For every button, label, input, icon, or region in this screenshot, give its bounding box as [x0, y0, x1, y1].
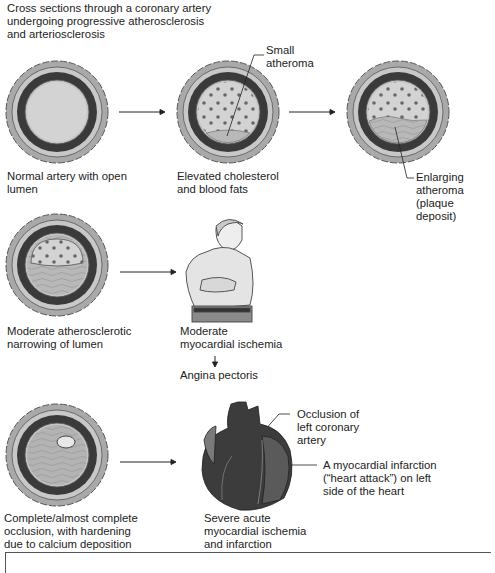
artery-small-atheroma-icon	[177, 61, 279, 163]
artery-enlarging-atheroma-icon	[347, 61, 449, 163]
artery-moderate-narrowing-icon	[6, 214, 108, 316]
stage-label-moderate-narrowing: Moderate atherosclerotic narrowing of lu…	[7, 325, 131, 351]
callout-myocardial-infarction: A myocardial infarction (“heart attack”)…	[323, 459, 437, 498]
stage-label-occlusion: Complete/almost complete occlusion, with…	[4, 512, 138, 551]
artery-normal-icon	[6, 61, 108, 163]
man-chest-pain-icon	[186, 219, 253, 322]
callout-small-atheroma: Small atheroma	[266, 44, 314, 70]
stage-label-small-atheroma: Elevated cholesterol and blood fats	[177, 170, 279, 196]
artery-occlusion-icon	[6, 404, 108, 506]
callout-occlusion-left-coronary: Occlusion of left coronary artery	[297, 408, 359, 447]
heart-icon	[202, 402, 292, 510]
stage-label-normal: Normal artery with open lumen	[7, 170, 127, 196]
outcome-angina-pectoris: Angina pectoris	[180, 369, 258, 382]
outcome-moderate-ischemia: Moderate myocardial ischemia	[180, 325, 282, 351]
outcome-severe-ischemia: Severe acute myocardial ischemia and inf…	[204, 512, 306, 551]
callout-enlarging-atheroma: Enlarging atheroma (plaque deposit)	[416, 171, 495, 223]
bottom-frame	[5, 552, 491, 573]
